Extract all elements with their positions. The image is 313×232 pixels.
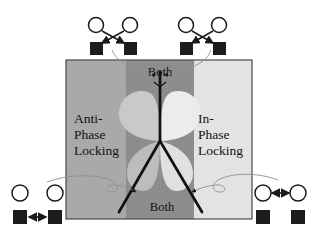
figure-canvas: Anti- Phase Locking In- Phase Locking Bo… <box>0 0 313 232</box>
inset-tr-square-right <box>213 42 226 55</box>
inset-br-square-right <box>291 210 305 224</box>
inset-tr-square-left <box>180 42 193 55</box>
inset-tl-circle-right <box>123 18 138 33</box>
both-label-top: Both <box>148 65 173 79</box>
inset-tr-circle-left <box>179 18 194 33</box>
inset-tl-circle-left <box>89 18 104 33</box>
anti-phase-line-3: Locking <box>74 143 119 158</box>
inset-tl-square-right <box>124 42 137 55</box>
inset-bl-circle-left <box>12 185 28 201</box>
anti-phase-line-2: Phase <box>74 127 106 142</box>
inset-bl-square-left <box>13 210 27 224</box>
in-phase-line-2: Phase <box>198 127 230 142</box>
inset-tl-square-left <box>90 42 103 55</box>
inset-br-circle-right <box>290 185 306 201</box>
both-label-bottom: Both <box>150 200 175 214</box>
inset-br-square-left <box>256 210 270 224</box>
inset-bl-circle-right <box>47 185 63 201</box>
inset-tr-circle-right <box>212 18 227 33</box>
inset-bl-square-right <box>48 210 62 224</box>
anti-phase-line-1: Anti- <box>74 111 103 126</box>
in-phase-line-1: In- <box>198 111 214 126</box>
in-phase-line-3: Locking <box>198 143 243 158</box>
inset-br-circle-left <box>255 185 271 201</box>
